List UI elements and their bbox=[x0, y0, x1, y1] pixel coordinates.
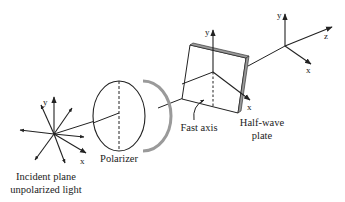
incident-label-line1: Incident plane bbox=[16, 171, 76, 182]
output-x-label: x bbox=[306, 65, 311, 75]
plate-y-label: y bbox=[205, 27, 210, 37]
hwp-label-line1: Half-wave bbox=[240, 117, 285, 128]
output-y-label: y bbox=[277, 10, 282, 20]
output-z-label: z bbox=[324, 31, 328, 41]
hwp-label-line2: plate bbox=[252, 130, 273, 141]
plate-x-label: x bbox=[247, 102, 252, 112]
fast-axis-label: Fast axis bbox=[180, 122, 217, 133]
polarizer bbox=[93, 81, 171, 151]
optics-diagram: y x Incident plane unpolarized light Pol… bbox=[0, 0, 345, 202]
incident-label-line2: unpolarized light bbox=[10, 184, 82, 195]
polarizer-edge-shadow bbox=[143, 81, 171, 151]
incident-x-label: x bbox=[80, 156, 85, 166]
half-wave-plate bbox=[182, 30, 250, 120]
incident-light-star bbox=[20, 97, 86, 163]
polarizer-label: Polarizer bbox=[100, 153, 138, 164]
incident-y-label: y bbox=[43, 97, 48, 107]
output-x-axis-icon bbox=[285, 46, 311, 64]
